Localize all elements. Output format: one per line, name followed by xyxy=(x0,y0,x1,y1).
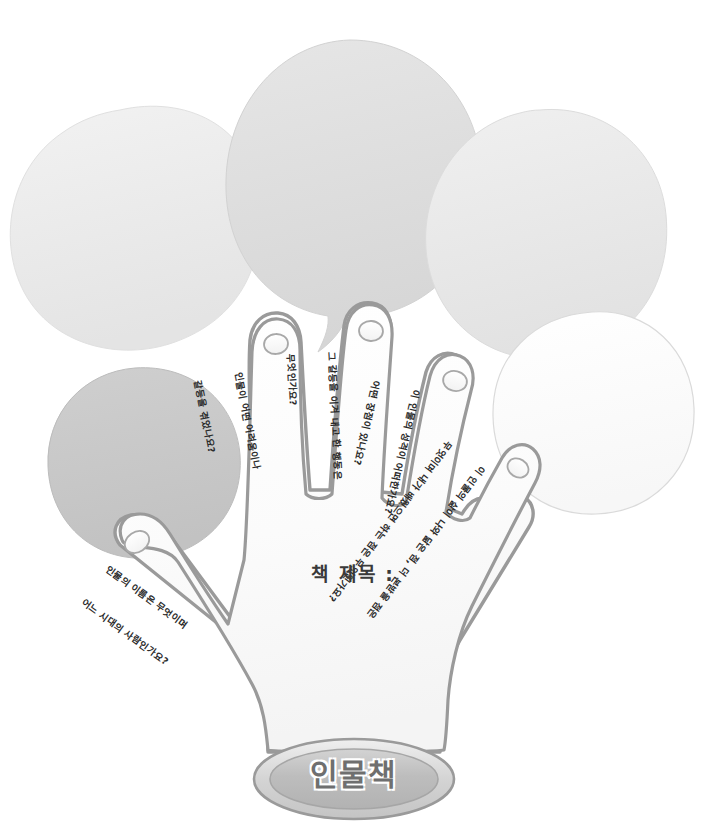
balloon-top-left xyxy=(10,106,260,350)
badge-inner xyxy=(270,749,438,809)
worksheet-artwork xyxy=(0,0,707,839)
badge-plate xyxy=(254,739,454,819)
fingernail-middle xyxy=(358,320,383,341)
worksheet-canvas: 인물의 이름은 무엇이며 어느 시대의 사람인가요? 인물이 어떤 어려움이나 … xyxy=(0,0,707,839)
fingernail-index xyxy=(263,333,288,355)
